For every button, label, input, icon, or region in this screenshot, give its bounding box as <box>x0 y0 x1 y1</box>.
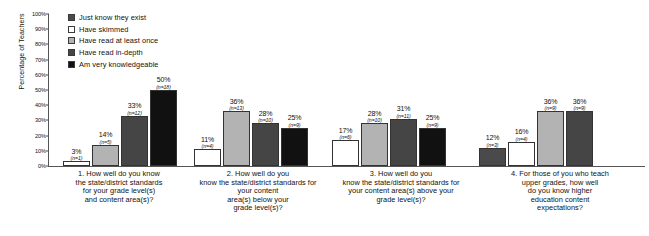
y-axis-tick-label: 40% <box>20 102 46 108</box>
bar-percent: 14% <box>99 131 113 139</box>
bar-percent: 33% <box>127 102 142 110</box>
bar-percent: 25% <box>288 114 302 122</box>
bar-group: 11%(n=4)36%(n=13)28%(n=10)25%(n=9) <box>194 14 324 166</box>
bar-group: 17%(n=6)28%(n=10)31%(n=11)25%(n=9) <box>332 14 462 166</box>
bar[interactable]: 36%(n=9) <box>566 111 593 166</box>
bar-count: (n=9) <box>544 105 558 111</box>
y-axis-tick-label: 0% <box>20 163 46 169</box>
bar-count: (n=1) <box>71 155 83 161</box>
bar-percent: 17% <box>339 127 353 135</box>
bar-percent: 36% <box>229 98 244 106</box>
category-label-line: grade level(s)? <box>318 196 484 205</box>
y-axis-tick-label: 20% <box>20 133 46 139</box>
category-label: 1. How well do you knowthe state/distric… <box>48 170 190 204</box>
bar-value-label: 36%(n=9) <box>544 98 558 113</box>
bar[interactable]: 36%(n=13) <box>223 111 250 166</box>
bar-count: (n=5) <box>99 139 113 145</box>
bar-chart: Percentage of Teachers 0%10%20%30%40%50%… <box>0 0 649 236</box>
bar-count: (n=6) <box>339 134 353 140</box>
bar[interactable]: 17%(n=6) <box>332 140 359 166</box>
bar-group: 3%(n=1)14%(n=5)33%(n=12)50%(n=18) <box>63 14 183 166</box>
bar-value-label: 28%(n=10) <box>258 110 273 125</box>
bar[interactable]: 16%(n=4) <box>508 142 535 166</box>
bar-percent: 12% <box>486 134 500 142</box>
bar-percent: 28% <box>258 110 273 118</box>
bar[interactable]: 31%(n=11) <box>390 119 417 166</box>
bar-count: (n=9) <box>573 105 587 111</box>
bar[interactable]: 33%(n=12) <box>121 116 148 166</box>
bar[interactable]: 25%(n=9) <box>281 128 308 166</box>
y-axis-tick-label: 90% <box>20 26 46 32</box>
bar-value-label: 33%(n=12) <box>127 102 142 117</box>
bar-value-label: 28%(n=10) <box>367 110 382 125</box>
bar-percent: 50% <box>156 76 171 84</box>
y-axis-tick-label: 50% <box>20 87 46 93</box>
bar[interactable]: 50%(n=18) <box>150 90 177 166</box>
bar[interactable]: 28%(n=10) <box>361 123 388 166</box>
bar-group: 12%(n=3)16%(n=4)36%(n=9)36%(n=9) <box>479 14 599 166</box>
bar-percent: 25% <box>426 114 440 122</box>
category-label: 3. How well do youknow the state/distric… <box>318 170 484 204</box>
x-axis-line <box>48 166 645 167</box>
bar[interactable]: 36%(n=9) <box>537 111 564 166</box>
bar-percent: 3% <box>71 148 83 156</box>
bar-count: (n=9) <box>426 122 440 128</box>
bar-count: (n=10) <box>367 117 382 123</box>
bar[interactable]: 11%(n=4) <box>194 149 221 166</box>
bar-value-label: 17%(n=6) <box>339 127 353 142</box>
category-label: 2. How well do youknow the state/distric… <box>178 170 338 213</box>
category-label-line: grade level(s)? <box>178 204 338 213</box>
y-axis-tick-label: 80% <box>20 41 46 47</box>
bar-percent: 16% <box>515 128 529 136</box>
bar[interactable]: 12%(n=3) <box>479 148 506 166</box>
bar[interactable]: 3%(n=1) <box>63 161 90 166</box>
y-axis-ticks: 0%10%20%30%40%50%60%70%80%90%100% <box>16 14 46 166</box>
bar-value-label: 25%(n=9) <box>288 114 302 129</box>
plot-area: 3%(n=1)14%(n=5)33%(n=12)50%(n=18)11%(n=4… <box>49 14 645 166</box>
bar-percent: 11% <box>201 136 214 144</box>
bar-value-label: 14%(n=5) <box>99 131 113 146</box>
bar-count: (n=10) <box>258 117 273 123</box>
category-label-line: expectations? <box>474 204 646 213</box>
bar-value-label: 31%(n=11) <box>396 105 410 120</box>
bar-value-label: 50%(n=18) <box>156 76 171 91</box>
y-axis-tick-label: 10% <box>20 148 46 154</box>
bar-percent: 31% <box>396 105 410 113</box>
bar-value-label: 36%(n=13) <box>229 98 244 113</box>
y-axis-tick-label: 60% <box>20 72 46 78</box>
bar-count: (n=11) <box>396 113 410 119</box>
bar-percent: 28% <box>367 110 382 118</box>
bar-value-label: 3%(n=1) <box>71 148 83 163</box>
bar-value-label: 16%(n=4) <box>515 128 529 143</box>
bar-percent: 36% <box>544 98 558 106</box>
bar[interactable]: 28%(n=10) <box>252 123 279 166</box>
bar-count: (n=4) <box>201 143 214 149</box>
bar-count: (n=4) <box>515 136 529 142</box>
y-axis-tick-label: 100% <box>20 11 46 17</box>
bar-count: (n=18) <box>156 84 171 90</box>
bar-value-label: 11%(n=4) <box>201 136 214 151</box>
bar-count: (n=13) <box>229 105 244 111</box>
category-label: 4. For those of you who teachupper grade… <box>474 170 646 213</box>
category-label-line: and content area(s)? <box>48 196 190 205</box>
bar-count: (n=9) <box>288 122 302 128</box>
bar-value-label: 36%(n=9) <box>573 98 587 113</box>
bar-value-label: 25%(n=9) <box>426 114 440 129</box>
bar-value-label: 12%(n=3) <box>486 134 500 149</box>
bar-count: (n=3) <box>486 142 500 148</box>
bar-count: (n=12) <box>127 110 142 116</box>
y-axis-tick-label: 30% <box>20 117 46 123</box>
bar-percent: 36% <box>573 98 587 106</box>
y-axis-tick-label: 70% <box>20 57 46 63</box>
bar[interactable]: 14%(n=5) <box>92 145 119 166</box>
bar[interactable]: 25%(n=9) <box>419 128 446 166</box>
